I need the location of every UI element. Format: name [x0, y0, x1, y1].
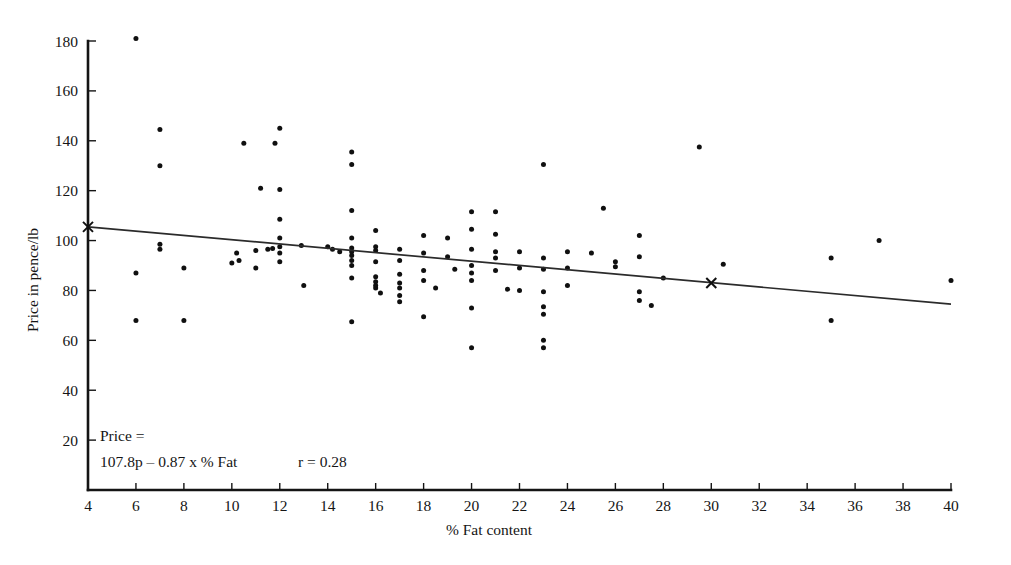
- x-tick-label: 28: [656, 497, 672, 514]
- data-point: [493, 256, 498, 261]
- data-point: [469, 247, 474, 252]
- data-point: [397, 280, 402, 285]
- data-point: [270, 246, 275, 251]
- regression-equation-annotation: Price = 107.8p – 0.87 x % Fat r = 0.28: [100, 427, 347, 470]
- x-axis-title: % Fat content: [446, 521, 533, 538]
- y-tick-label: 20: [63, 432, 79, 449]
- data-point: [541, 345, 546, 350]
- x-tick-label: 8: [180, 497, 188, 514]
- data-point: [349, 208, 354, 213]
- data-point: [493, 268, 498, 273]
- data-point: [265, 247, 270, 252]
- data-point: [349, 319, 354, 324]
- y-tick-label: 80: [63, 282, 79, 299]
- data-point: [493, 249, 498, 254]
- data-point: [349, 275, 354, 280]
- data-point: [349, 162, 354, 167]
- y-axis-title-text: Price in pence/lb: [24, 228, 41, 332]
- data-point: [541, 338, 546, 343]
- x-tick-label: 6: [132, 497, 140, 514]
- x-tick-label: 20: [464, 497, 480, 514]
- data-point: [469, 263, 474, 268]
- data-point: [253, 248, 258, 253]
- data-point: [237, 258, 242, 263]
- data-point: [373, 259, 378, 264]
- data-point: [469, 270, 474, 275]
- data-point: [469, 227, 474, 232]
- x-tick-label: 30: [704, 497, 720, 514]
- x-tick-label: 38: [895, 497, 911, 514]
- data-point: [373, 285, 378, 290]
- data-point: [613, 259, 618, 264]
- data-point: [272, 141, 277, 146]
- data-point: [721, 262, 726, 267]
- data-point: [493, 209, 498, 214]
- y-tick-label: 160: [55, 82, 79, 99]
- x-tick-label: 16: [368, 497, 384, 514]
- data-point: [133, 270, 138, 275]
- data-point: [397, 285, 402, 290]
- data-point: [157, 247, 162, 252]
- data-point: [349, 236, 354, 241]
- x-tick-label: 12: [272, 497, 288, 514]
- data-point-group: [133, 36, 953, 350]
- data-point: [565, 283, 570, 288]
- data-point: [421, 251, 426, 256]
- x-tick-label: 34: [799, 497, 815, 514]
- data-point: [421, 268, 426, 273]
- x-tick-label: 32: [751, 497, 767, 514]
- y-tick-label: 100: [55, 232, 79, 249]
- data-point: [373, 274, 378, 279]
- data-point: [397, 247, 402, 252]
- data-point: [349, 263, 354, 268]
- data-point: [421, 278, 426, 283]
- x-tick-label: 36: [847, 497, 863, 514]
- data-point: [829, 256, 834, 261]
- data-point: [637, 289, 642, 294]
- data-point: [397, 293, 402, 298]
- scatter-plot-figure: Price in pence/lb % Fat content 20406080…: [0, 0, 1011, 565]
- data-point: [397, 272, 402, 277]
- data-point: [433, 285, 438, 290]
- data-point: [397, 258, 402, 263]
- data-point: [258, 186, 263, 191]
- data-point: [157, 242, 162, 247]
- data-point: [277, 259, 282, 264]
- data-point: [277, 126, 282, 131]
- x-tick-label: 10: [224, 497, 240, 514]
- data-point: [229, 261, 234, 266]
- data-point: [349, 253, 354, 258]
- data-point: [181, 265, 186, 270]
- y-tick-label: 60: [63, 332, 79, 349]
- data-point: [649, 303, 654, 308]
- data-point: [421, 233, 426, 238]
- x-tick-label: 24: [560, 497, 576, 514]
- annotation-correlation: r = 0.28: [298, 453, 347, 470]
- x-tick-label: 4: [84, 497, 92, 514]
- data-point: [133, 318, 138, 323]
- y-tick-label: 180: [55, 33, 79, 50]
- x-tick-label: 18: [416, 497, 432, 514]
- data-point: [349, 150, 354, 155]
- annotation-equation: 107.8p – 0.87 x % Fat: [100, 453, 238, 470]
- data-point: [637, 298, 642, 303]
- data-point: [378, 290, 383, 295]
- data-point: [133, 36, 138, 41]
- x-tick-label: 40: [943, 497, 959, 514]
- data-point: [277, 251, 282, 256]
- data-point: [517, 288, 522, 293]
- data-point: [949, 278, 954, 283]
- x-tick-label: 26: [608, 497, 624, 514]
- data-point: [397, 299, 402, 304]
- data-point: [697, 145, 702, 150]
- x-tick-label: 14: [320, 497, 336, 514]
- data-point: [493, 232, 498, 237]
- data-point: [541, 304, 546, 309]
- data-point: [589, 251, 594, 256]
- y-tick-label: 120: [55, 182, 79, 199]
- data-point: [637, 254, 642, 259]
- x-tick-label: 22: [512, 497, 528, 514]
- data-point: [181, 318, 186, 323]
- data-point: [505, 287, 510, 292]
- data-point: [301, 283, 306, 288]
